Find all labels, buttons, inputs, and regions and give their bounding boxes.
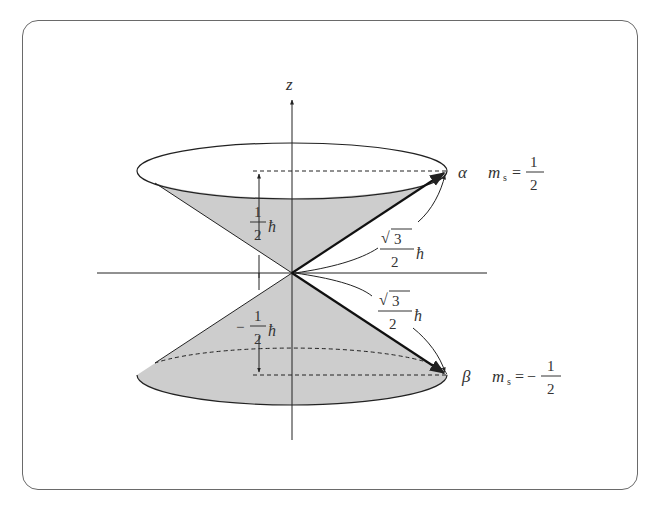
z-axis-label: z [285, 75, 293, 94]
svg-text:=: = [512, 164, 521, 181]
beta-state-label: β m s = − 1 2 [461, 358, 561, 397]
svg-text:1: 1 [530, 154, 538, 170]
svg-text:s: s [507, 376, 511, 387]
svg-text:1: 1 [254, 308, 262, 324]
svg-text:ħ: ħ [416, 245, 424, 262]
svg-text:ħ: ħ [268, 322, 276, 339]
svg-text:−: − [236, 319, 244, 335]
svg-text:m: m [488, 163, 500, 182]
svg-text:−: − [527, 368, 536, 385]
svg-text:ħ: ħ [268, 218, 276, 235]
svg-text:1: 1 [547, 358, 555, 374]
svg-text:m: m [492, 367, 504, 386]
svg-text:√: √ [381, 229, 390, 246]
svg-text:2: 2 [254, 227, 262, 243]
svg-text:=: = [515, 368, 524, 385]
svg-text:2: 2 [389, 316, 397, 332]
svg-text:2: 2 [547, 381, 555, 397]
beta-magnitude-label: √ 3 2 ħ [378, 291, 422, 332]
svg-text:2: 2 [391, 254, 399, 270]
svg-text:2: 2 [254, 331, 262, 347]
alpha-state-label: α m s = 1 2 [458, 154, 544, 193]
svg-text:3: 3 [394, 231, 402, 247]
svg-text:β: β [461, 367, 471, 386]
svg-text:3: 3 [392, 293, 400, 309]
svg-text:2: 2 [530, 177, 538, 193]
svg-text:α: α [458, 163, 468, 182]
alpha-magnitude-label: √ 3 2 ħ [380, 229, 424, 270]
svg-text:√: √ [379, 291, 388, 308]
svg-text:s: s [503, 172, 507, 183]
svg-text:ħ: ħ [414, 307, 422, 324]
spin-cone-diagram: z α m s = 1 2 β m s = − 1 2 1 2 ħ − 1 2 … [0, 0, 655, 509]
svg-text:1: 1 [254, 204, 262, 220]
